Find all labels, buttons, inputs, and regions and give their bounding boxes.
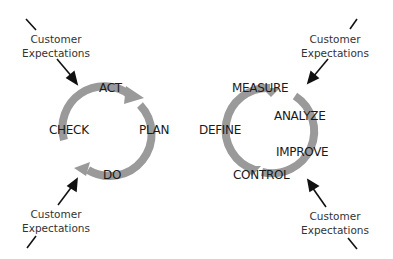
- dmaic-control-label: CONTROL: [233, 169, 290, 181]
- expectations-line: Expectations: [16, 46, 96, 60]
- dmaic-define-label: DEFINE: [199, 124, 241, 136]
- dmaic-analyze-label: ANALYZE: [274, 110, 326, 122]
- customer-expectations-top-right: Customer Expectations: [295, 32, 375, 60]
- pdca-do-label: DO: [103, 169, 121, 181]
- customer-line: Customer: [295, 32, 375, 46]
- pdca-plan-label: PLAN: [139, 124, 169, 136]
- expectations-line: Expectations: [295, 46, 375, 60]
- pdca-check-label: CHECK: [49, 124, 89, 136]
- expectations-line: Expectations: [295, 223, 375, 237]
- pdca-act-label: ACT: [99, 82, 122, 94]
- customer-expectations-top-left: Customer Expectations: [16, 32, 96, 60]
- dmaic-improve-label: IMPROVE: [276, 146, 328, 158]
- pdca-arrowhead-top: [124, 86, 144, 104]
- customer-expectations-bottom-left: Customer Expectations: [16, 207, 96, 235]
- customer-expectations-bottom-right: Customer Expectations: [295, 209, 375, 237]
- customer-line: Customer: [16, 207, 96, 221]
- customer-line: Customer: [16, 32, 96, 46]
- customer-line: Customer: [295, 209, 375, 223]
- expectations-line: Expectations: [16, 221, 96, 235]
- dmaic-measure-label: MEASURE: [232, 82, 288, 94]
